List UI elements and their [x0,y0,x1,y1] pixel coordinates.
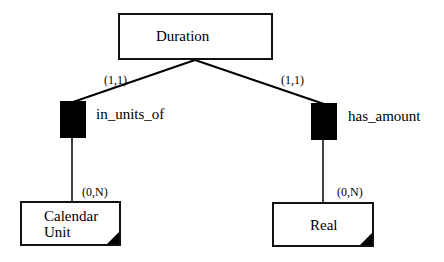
entity-duration-label: Duration [156,28,209,45]
entity-real[interactable]: Real [272,202,374,247]
entity-calendar-unit-label-line1: Calendar [44,208,98,225]
cardinality-in-units-of-bottom: (0,N) [82,185,108,200]
relationship-in-units-of-box[interactable] [60,101,86,138]
cardinality-has-amount-top: (1,1) [281,73,304,88]
entity-duration[interactable]: Duration [118,13,273,60]
corner-marker-icon [360,233,372,245]
relationship-in-units-of-label: in_units_of [96,106,164,123]
relationship-has-amount-label: has_amount [348,108,421,125]
cardinality-has-amount-bottom: (0,N) [337,185,363,200]
entity-calendar-unit[interactable]: Calendar Unit [20,201,121,246]
corner-marker-icon [107,232,119,244]
entity-real-label: Real [310,217,338,234]
relationship-has-amount-box[interactable] [311,103,337,140]
cardinality-in-units-of-top: (1,1) [104,73,127,88]
entity-calendar-unit-label-line2: Unit [44,224,71,241]
